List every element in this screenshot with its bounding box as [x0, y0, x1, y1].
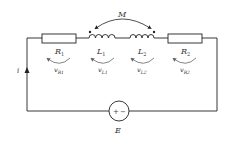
plus-sign: + — [113, 108, 119, 116]
voltage-source: + − E — [109, 101, 129, 135]
svg-text:vR2: vR2 — [180, 66, 190, 75]
inductor-l1: L1 vL1 — [89, 31, 115, 75]
svg-text:R1: R1 — [54, 47, 64, 57]
source-label: E — [114, 126, 121, 135]
current-label: i — [17, 67, 19, 75]
svg-text:L2: L2 — [137, 47, 147, 57]
svg-text:vR1: vR1 — [54, 66, 64, 75]
mutual-inductance-label: M — [117, 10, 127, 19]
inductor-l2: L2 vL2 — [130, 31, 155, 75]
resistor-r2: R2 vR2 — [168, 34, 202, 75]
circuit-diagram: i R1 vR1 L1 vL1 L2 vL2 R2 vR2 M + − — [0, 0, 228, 146]
svg-text:R2: R2 — [180, 47, 190, 57]
dot-marker — [153, 31, 155, 33]
resistor-r1: R1 vR1 — [42, 34, 76, 75]
minus-sign: − — [120, 108, 126, 116]
mutual-inductance-arrow: M — [96, 10, 150, 28]
svg-text:vL2: vL2 — [137, 66, 147, 75]
current-arrow: i — [17, 67, 30, 75]
dot-marker — [89, 31, 91, 33]
svg-text:vL1: vL1 — [98, 66, 108, 75]
svg-text:L1: L1 — [96, 47, 106, 57]
